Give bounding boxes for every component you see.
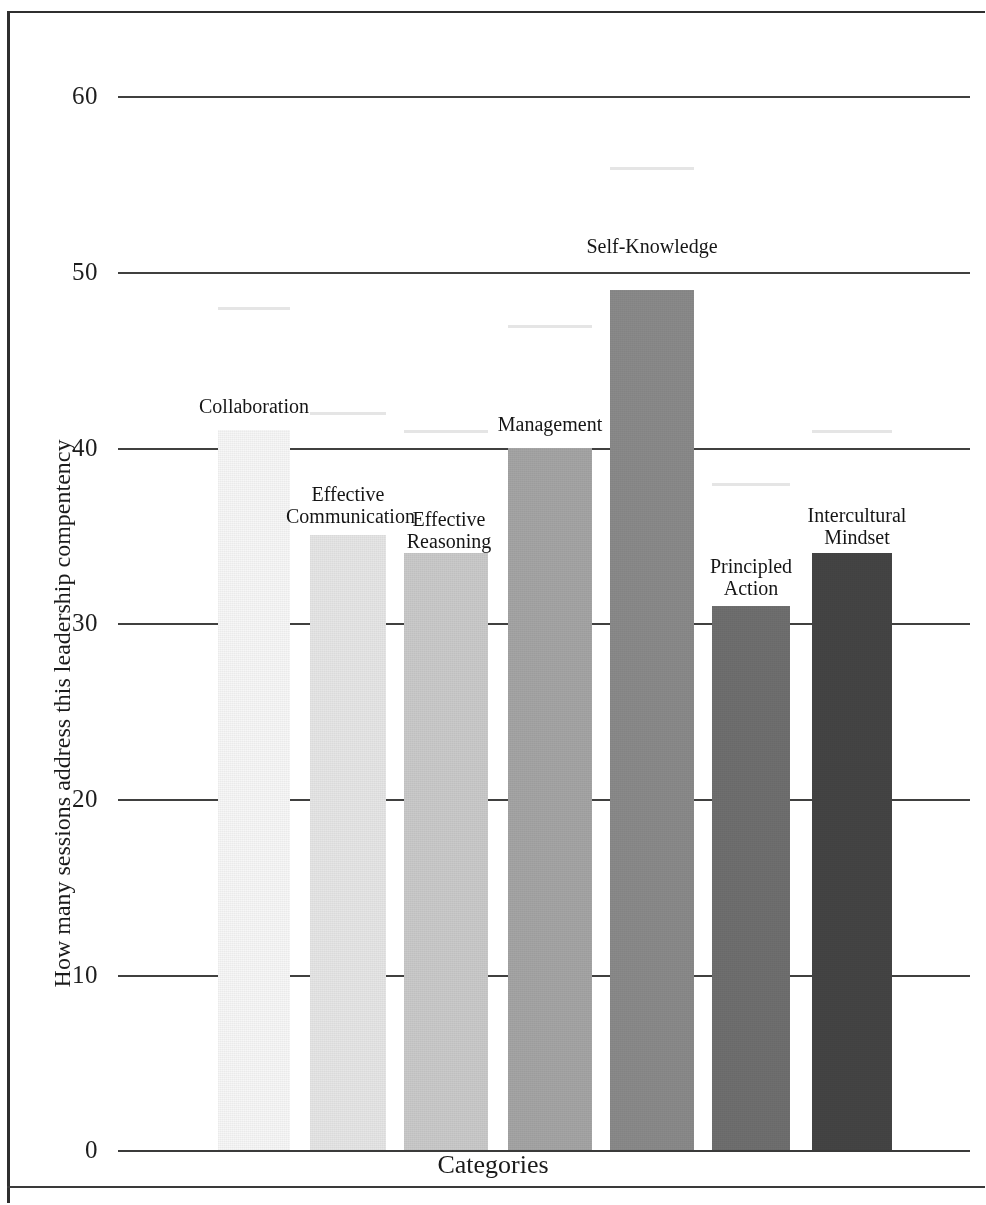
bar-intercultural-mindset[interactable] bbox=[812, 553, 892, 1150]
bar-texture bbox=[508, 448, 592, 1150]
bar-seam-artifact bbox=[610, 167, 694, 170]
bar-seam-artifact bbox=[812, 430, 892, 433]
bar-label-effective-reasoning: Effective Reasoning bbox=[404, 509, 494, 552]
bar-seam-artifact bbox=[218, 307, 290, 310]
bar-principled-action[interactable] bbox=[712, 606, 790, 1150]
bar-texture bbox=[218, 430, 290, 1150]
bar-texture bbox=[404, 553, 488, 1150]
ytick-label-50: 50 bbox=[38, 259, 98, 284]
bar-seam-artifact bbox=[310, 412, 386, 415]
gridline-60 bbox=[118, 96, 970, 98]
bar-label-intercultural-mindset: Intercultural Mindset bbox=[798, 505, 916, 548]
bar-seam-artifact bbox=[712, 483, 790, 486]
gridline-50 bbox=[118, 272, 970, 274]
x-axis-title: Categories bbox=[0, 1150, 986, 1180]
ytick-label-60: 60 bbox=[38, 83, 98, 108]
bar-self-knowledge[interactable] bbox=[610, 290, 694, 1150]
bar-chart-plot-area: 60 50 40 30 20 10 0 How many sessions ad… bbox=[0, 0, 986, 1205]
bar-effective-reasoning[interactable] bbox=[404, 553, 488, 1150]
bar-label-principled-action: Principled Action bbox=[705, 556, 797, 599]
chart-page: 60 50 40 30 20 10 0 How many sessions ad… bbox=[0, 0, 986, 1205]
bar-label-effective-communication: Effective Communication bbox=[286, 484, 410, 527]
bar-texture bbox=[610, 290, 694, 1150]
y-axis-title: How many sessions address this leadershi… bbox=[49, 334, 76, 1094]
bar-label-management: Management bbox=[470, 414, 630, 436]
bar-collaboration[interactable] bbox=[218, 430, 290, 1150]
bar-texture bbox=[310, 535, 386, 1150]
bar-effective-communication[interactable] bbox=[310, 535, 386, 1150]
bar-management[interactable] bbox=[508, 448, 592, 1150]
bar-texture bbox=[812, 553, 892, 1150]
bar-seam-artifact bbox=[508, 325, 592, 328]
bar-texture bbox=[712, 606, 790, 1150]
bar-label-self-knowledge: Self-Knowledge bbox=[572, 236, 732, 258]
